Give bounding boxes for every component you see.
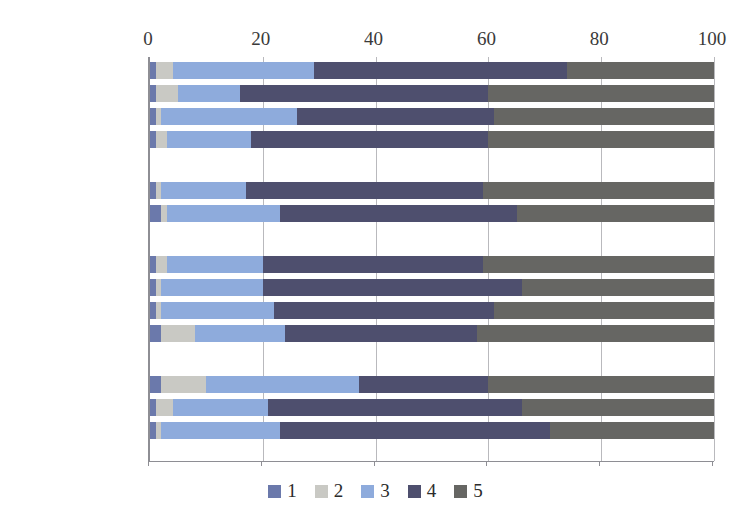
bar-segment-2 [156, 85, 179, 102]
x-axis-tick-mark [148, 461, 149, 466]
stacked-bar [150, 256, 714, 273]
bar-segment-1 [150, 205, 161, 222]
chart-row: 40—54岁 [150, 108, 714, 125]
legend-item: 2 [315, 481, 344, 501]
x-axis-tick-mark [261, 461, 262, 466]
chart-row: 大城市 [150, 279, 714, 296]
stacked-bar [150, 422, 714, 439]
bar-segment-2 [156, 62, 173, 79]
bar-segment-1 [150, 376, 161, 393]
bar-segment-5 [488, 376, 714, 393]
bar-segment-3 [167, 205, 280, 222]
x-axis-top: 020406080100 [148, 28, 712, 54]
x-axis-tick-mark [599, 461, 600, 466]
chart-row: 高等教育 [150, 422, 714, 439]
bar-segment-4 [280, 422, 551, 439]
stacked-bar [150, 108, 714, 125]
bar-segment-3 [178, 85, 240, 102]
bar-segment-4 [263, 279, 522, 296]
bar-segment-3 [161, 422, 279, 439]
bar-segment-4 [263, 256, 483, 273]
bar-segment-4 [314, 62, 568, 79]
x-axis-tick-label: 40 [364, 28, 383, 50]
bar-segment-5 [483, 182, 714, 199]
chart-row: 雅典 [150, 256, 714, 273]
bar-segment-5 [567, 62, 714, 79]
legend-item: 4 [408, 481, 437, 501]
stacked-bar [150, 131, 714, 148]
bar-segment-5 [477, 325, 714, 342]
bar-segment-5 [488, 131, 714, 148]
bar-segment-4 [240, 85, 488, 102]
bar-segment-3 [167, 256, 263, 273]
chart-row: 女性 [150, 205, 714, 222]
bar-segment-4 [251, 131, 488, 148]
chart-row: 30—39岁 [150, 85, 714, 102]
grid-line [714, 57, 715, 461]
bar-segment-4 [285, 325, 477, 342]
bar-segment-4 [297, 108, 494, 125]
bar-segment-4 [268, 399, 522, 416]
bar-segment-2 [156, 256, 167, 273]
bar-segment-4 [280, 205, 517, 222]
bar-segment-5 [483, 256, 714, 273]
bar-segment-4 [274, 302, 494, 319]
legend-label: 3 [380, 481, 390, 501]
bar-segment-2 [161, 325, 195, 342]
bar-segment-2 [156, 131, 167, 148]
chart-row: 男性 [150, 182, 714, 199]
chart-row: 18—29岁 [150, 62, 714, 79]
bar-segment-3 [167, 131, 252, 148]
bar-segment-4 [359, 376, 489, 393]
stacked-bar [150, 279, 714, 296]
x-axis-tick-mark [374, 461, 375, 466]
x-axis-tick-label: 60 [477, 28, 496, 50]
bar-segment-5 [494, 302, 714, 319]
bar-segment-3 [173, 399, 269, 416]
bar-segment-3 [206, 376, 358, 393]
legend-swatch-5 [454, 485, 467, 498]
chart-row: 初等教育 [150, 376, 714, 393]
bar-segment-5 [488, 85, 714, 102]
x-axis-tick-mark [486, 461, 487, 466]
bar-segment-5 [550, 422, 714, 439]
bar-segment-2 [161, 376, 206, 393]
stacked-bar [150, 62, 714, 79]
bar-segment-3 [161, 279, 263, 296]
bar-segment-5 [494, 108, 714, 125]
chart-row: 农村 [150, 325, 714, 342]
chart-row: 其他城镇 [150, 302, 714, 319]
stacked-bar [150, 182, 714, 199]
stacked-bar [150, 399, 714, 416]
plot-area: 18—29岁30—39岁40—54岁55—69岁男性女性雅典大城市其他城镇农村初… [148, 57, 714, 461]
stacked-bar [150, 302, 714, 319]
stacked-bar-chart: 020406080100 18—29岁30—39岁40—54岁55—69岁男性女… [0, 0, 751, 524]
stacked-bar [150, 205, 714, 222]
legend-item: 1 [268, 481, 297, 501]
x-axis-tick-mark [712, 461, 713, 466]
stacked-bar [150, 325, 714, 342]
x-axis-tick-label: 0 [143, 28, 153, 50]
bar-segment-3 [161, 108, 296, 125]
bar-segment-3 [161, 302, 274, 319]
stacked-bar [150, 376, 714, 393]
x-axis-tick-label: 80 [590, 28, 609, 50]
stacked-bar [150, 85, 714, 102]
legend-swatch-2 [315, 485, 328, 498]
x-axis-tick-label: 100 [698, 28, 727, 50]
legend-item: 3 [361, 481, 390, 501]
legend-swatch-1 [268, 485, 281, 498]
chart-row: 中等教育 [150, 399, 714, 416]
bar-segment-3 [161, 182, 246, 199]
x-axis-tick-label: 20 [251, 28, 270, 50]
bar-segment-5 [522, 399, 714, 416]
legend-label: 5 [473, 481, 483, 501]
legend-item: 5 [454, 481, 483, 501]
legend-swatch-4 [408, 485, 421, 498]
chart-legend: 12345 [0, 481, 751, 501]
bar-segment-5 [517, 205, 714, 222]
bar-segment-3 [195, 325, 285, 342]
bar-segment-3 [173, 62, 314, 79]
legend-swatch-3 [361, 485, 374, 498]
bar-segment-1 [150, 325, 161, 342]
